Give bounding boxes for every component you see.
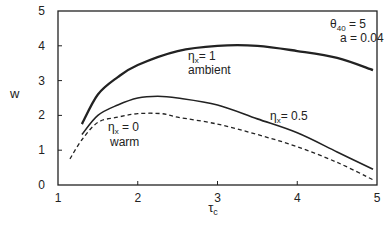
x-tick-label: 5: [374, 191, 381, 205]
y-tick-label: 3: [38, 74, 45, 88]
x-tick-label: 4: [294, 191, 301, 205]
label-eta05: ηx= 0.5: [270, 109, 308, 125]
series-line-0: [82, 45, 373, 124]
annotation-a: a = 0.04: [340, 31, 384, 45]
y-tick-label: 2: [38, 108, 45, 122]
label-eta0: ηx = 0: [108, 120, 139, 136]
chart: 12345 012345 w τc θ40 = 5 a = 0.04 ηx= 1…: [0, 0, 389, 225]
plot-frame: [58, 11, 377, 185]
y-tick-label: 0: [38, 178, 45, 192]
x-tick-label: 3: [214, 191, 221, 205]
x-tick-label: 1: [55, 191, 62, 205]
y-tick-label: 4: [38, 39, 45, 53]
y-axis-label: w: [9, 86, 20, 101]
x-tick-label: 2: [134, 191, 141, 205]
label-warm: warm: [109, 135, 139, 149]
y-tick-label: 1: [38, 143, 45, 157]
label-ambient: ambient: [188, 63, 231, 77]
y-tick-label: 5: [38, 4, 45, 18]
